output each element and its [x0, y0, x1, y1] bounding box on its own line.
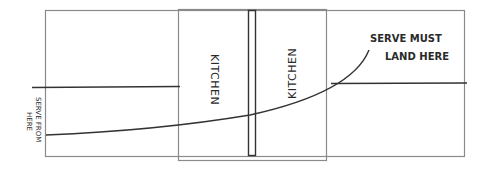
left-service-line [32, 87, 180, 88]
serve-path [46, 50, 369, 135]
serve-from-label-2: HERE [25, 112, 33, 131]
serve-must-label-1: SERVE MUST [370, 33, 442, 44]
kitchen-zone [179, 10, 327, 161]
serve-must-label-2: LAND HERE [385, 51, 449, 62]
kitchen-right-label: KITCHEN [286, 48, 299, 99]
court-diagram: KITCHEN KITCHEN SERVE FROM HERE SERVE MU… [0, 0, 490, 169]
kitchen-left-label: KITCHEN [208, 54, 221, 105]
serve-from-label-1: SERVE FROM [34, 97, 42, 142]
right-service-line [331, 83, 467, 84]
net [249, 11, 256, 156]
